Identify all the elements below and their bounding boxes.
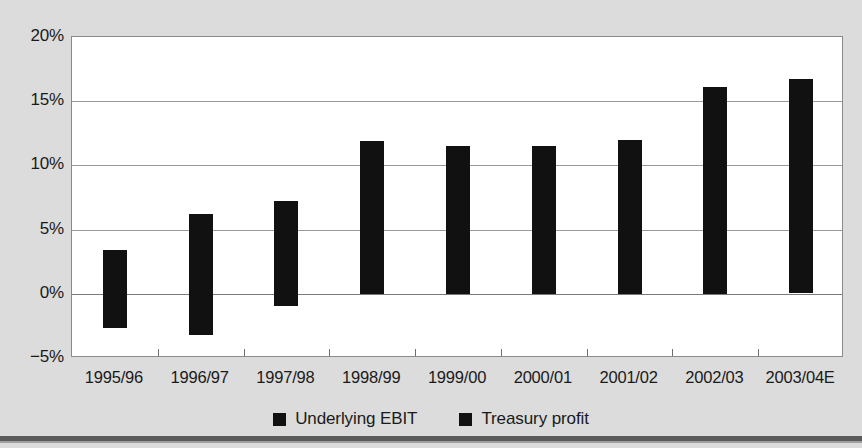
bar-2001-02 [618,140,642,294]
chart-figure: −5%0%5%10%15%20% 1995/961996/971997/9819… [0,0,862,448]
bar-1995-96 [103,250,127,328]
legend-label: Treasury profit [481,409,588,429]
bar-2003-04E [789,79,813,293]
y-axis-tick-label: 10% [4,155,64,172]
bar-2000-01 [532,146,556,294]
x-axis-tick [587,349,588,356]
legend-swatch-icon [459,413,472,426]
legend-swatch-icon [273,413,286,426]
y-axis-tick-label: −5% [4,348,64,365]
bar-1997-98 [274,201,298,306]
bar-1999-00 [446,146,470,294]
chart-legend: Underlying EBITTreasury profit [0,404,862,434]
x-axis-tick [158,349,159,356]
bar-1998-99 [360,141,384,294]
x-axis-category-label: 1995/96 [71,366,157,392]
legend-item-2: Treasury profit [459,409,588,429]
bottom-divider [0,436,862,443]
x-axis-category-label: 2001/02 [586,366,672,392]
x-axis-tick [329,349,330,356]
legend-item-1: Underlying EBIT [273,409,417,429]
y-axis-tick-label: 5% [4,220,64,237]
x-axis-tick [501,349,502,356]
x-axis-category-label: 2003/04E [757,366,843,392]
plot-area [71,36,843,357]
x-axis-tick [758,349,759,356]
x-axis-category-label: 2000/01 [500,366,586,392]
y-axis-tick-label: 0% [4,284,64,301]
y-axis-tick-label: 15% [4,91,64,108]
x-axis-category-label: 1996/97 [157,366,243,392]
x-axis-category-label: 1998/99 [328,366,414,392]
x-axis-tick [672,349,673,356]
bar-2002-03 [703,87,727,294]
x-axis-category-label: 1999/00 [414,366,500,392]
x-axis-category-label: 2002/03 [671,366,757,392]
y-axis: −5%0%5%10%15%20% [0,0,64,448]
x-axis-category-label: 1997/98 [243,366,329,392]
bar-1996-97 [189,214,213,335]
x-axis-tick [244,349,245,356]
zero-line [72,294,842,295]
x-axis-tick [415,349,416,356]
legend-label: Underlying EBIT [295,409,417,429]
y-axis-tick-label: 20% [4,27,64,44]
x-axis: 1995/961996/971997/981998/991999/002000/… [71,366,843,392]
